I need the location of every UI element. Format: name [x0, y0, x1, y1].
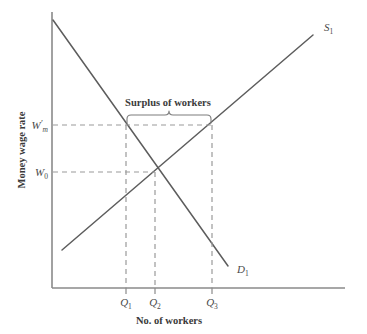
y-tick-label-wage-equilibrium: W0: [35, 166, 48, 181]
wage-eq-sub: 0: [44, 172, 48, 181]
surplus-annotation-label: Surplus of workers: [125, 97, 211, 108]
supply-curve-label-sub: 1: [330, 27, 334, 36]
demand-curve-label: D1: [236, 263, 249, 278]
demand-curve: [53, 20, 228, 266]
x-axis-title: No. of workers: [136, 315, 202, 326]
y-axis-title: Money wage rate: [16, 111, 27, 188]
surplus-brace-icon: [127, 111, 211, 123]
economics-labour-market-diagram: Surplus of workers S1 D1 W′m W0 Q1 Q2 Q3…: [0, 0, 367, 334]
x-tick-label-q3: Q3: [206, 296, 218, 311]
demand-curve-label-sub: 1: [245, 269, 249, 278]
q2-sub: 2: [157, 302, 161, 311]
supply-curve: [62, 35, 313, 250]
q2-base: Q: [149, 296, 157, 308]
y-tick-label-wage-min: W′m: [31, 118, 48, 134]
demand-curve-label-base: D: [236, 263, 245, 275]
x-tick-label-q1: Q1: [120, 296, 132, 311]
wage-min-sub: m: [43, 125, 49, 134]
q1-sub: 1: [128, 302, 132, 311]
q1-base: Q: [120, 296, 128, 308]
chart-canvas: Surplus of workers S1 D1 W′m W0 Q1 Q2 Q3…: [0, 0, 367, 334]
q3-base: Q: [206, 296, 214, 308]
supply-curve-label: S1: [324, 21, 334, 36]
x-tick-label-q2: Q2: [149, 296, 161, 311]
q3-sub: 3: [214, 302, 218, 311]
